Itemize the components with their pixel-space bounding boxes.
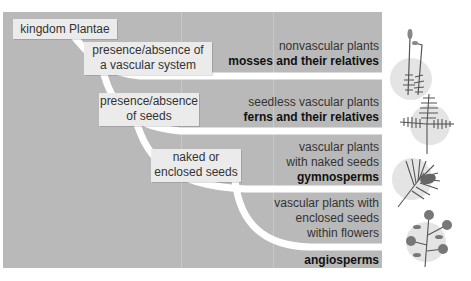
decision-text: naked or (151, 150, 241, 165)
group-name: angiosperms (304, 253, 379, 268)
decision-vascular: presence/absence of a vascular system (84, 42, 212, 75)
decision-text: of seeds (99, 109, 199, 124)
group-name: ferns and their relatives (244, 110, 379, 125)
group-description: vascular plants (286, 140, 379, 155)
group-name: gymnosperms (286, 170, 379, 185)
decision-seeds: presence/absence of seeds (99, 93, 199, 126)
group-angiosperms-description: vascular plants with enclosed seeds with… (274, 196, 379, 241)
fern-icon (396, 92, 458, 157)
group-name: mosses and their relatives (228, 54, 379, 69)
group-angiosperms: angiosperms (304, 253, 379, 268)
group-description: nonvascular plants (228, 39, 379, 54)
decision-text: presence/absence (99, 94, 199, 109)
group-description: with naked seeds (286, 155, 379, 170)
root-label: kingdom Plantae (13, 19, 117, 39)
decision-text: presence/absence of (84, 43, 212, 58)
decision-text: a vascular system (84, 58, 212, 73)
moss-icon (390, 25, 440, 100)
group-description: seedless vascular plants (244, 95, 379, 110)
group-gymnosperms: vascular plants with naked seeds gymnosp… (286, 140, 379, 185)
pine-branch-icon (394, 155, 446, 210)
group-description: enclosed seeds (274, 211, 379, 226)
group-description: vascular plants with (274, 196, 379, 211)
group-ferns: seedless vascular plants ferns and their… (244, 95, 379, 125)
decision-text: enclosed seeds (151, 165, 241, 180)
flowering-plant-icon (403, 205, 459, 270)
group-description: within flowers (274, 226, 379, 241)
decision-naked-enclosed: naked or enclosed seeds (151, 149, 241, 182)
group-mosses: nonvascular plants mosses and their rela… (228, 39, 379, 69)
